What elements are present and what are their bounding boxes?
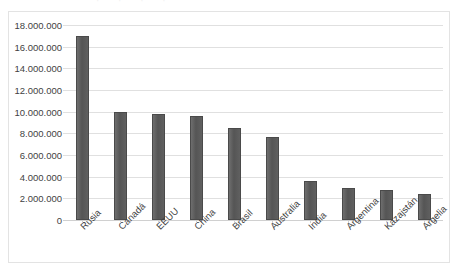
- y-axis-tick-label: 18.000.000: [8, 20, 62, 31]
- y-axis-tick-label: 2.000.000: [8, 193, 62, 204]
- bar-rusia: [76, 36, 89, 220]
- x-axis-tick-mark: [234, 220, 235, 223]
- x-axis-tick-mark: [386, 220, 387, 223]
- bar-chart-figure: · · · · 02.000.0004.000.0006.000.0008.00…: [0, 0, 459, 275]
- bar-canad-: [114, 112, 127, 220]
- bar-slot: [329, 25, 367, 220]
- chart-title: · · · ·: [96, 0, 174, 6]
- chart-title-strip: · · · ·: [0, 0, 459, 11]
- x-axis-tick-mark: [272, 220, 273, 223]
- x-axis: RusiaCanadáEEUUChinaBrasilAustraliaIndia…: [63, 220, 443, 270]
- y-axis-tick-label: 4.000.000: [8, 171, 62, 182]
- y-axis-tick-label: 8.000.000: [8, 128, 62, 139]
- bar-slot: [101, 25, 139, 220]
- bar-china: [190, 116, 203, 220]
- bar-slot: [405, 25, 443, 220]
- bar-australia: [266, 137, 279, 220]
- plot-area: [63, 25, 443, 220]
- y-axis-tick-label: 10.000.000: [8, 106, 62, 117]
- y-axis-tick-label: 14.000.000: [8, 63, 62, 74]
- bar-series: [63, 25, 443, 220]
- x-axis-tick-mark: [120, 220, 121, 223]
- bar-slot: [139, 25, 177, 220]
- x-axis-tick-mark: [348, 220, 349, 223]
- y-axis-tick-label: 12.000.000: [8, 85, 62, 96]
- bar-brasil: [228, 128, 241, 220]
- bar-slot: [215, 25, 253, 220]
- bar-slot: [253, 25, 291, 220]
- bar-slot: [63, 25, 101, 220]
- y-axis-tick-label: 16.000.000: [8, 41, 62, 52]
- bar-slot: [291, 25, 329, 220]
- bar-eeuu: [152, 114, 165, 220]
- bar-slot: [367, 25, 405, 220]
- x-axis-tick-mark: [82, 220, 83, 223]
- x-axis-tick-mark: [196, 220, 197, 223]
- x-axis-tick-mark: [158, 220, 159, 223]
- x-axis-tick-mark: [424, 220, 425, 223]
- y-axis-tick-label: 6.000.000: [8, 150, 62, 161]
- x-axis-tick-mark: [310, 220, 311, 223]
- y-axis-tick-label: 0: [8, 215, 62, 226]
- y-axis: 02.000.0004.000.0006.000.0008.000.00010.…: [8, 0, 62, 275]
- bar-slot: [177, 25, 215, 220]
